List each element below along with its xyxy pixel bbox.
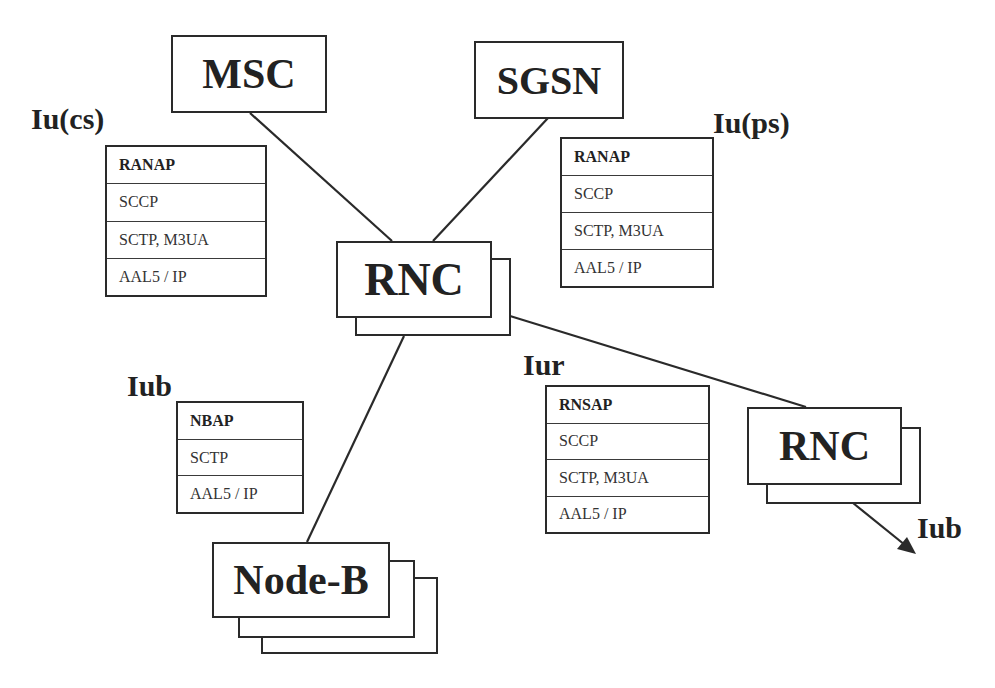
iub-remote-label: Iub — [917, 513, 962, 543]
sgsn-node[interactable]: SGSN — [474, 41, 624, 119]
rnc-remote-node[interactable]: RNC — [747, 407, 902, 485]
rnc-remote-label: RNC — [779, 422, 870, 470]
protocol-layer: SCCP — [562, 175, 712, 212]
rnc-main-label: RNC — [364, 253, 464, 306]
rnc-main-node[interactable]: RNC — [336, 241, 492, 318]
protocol-layer: AAL5 / IP — [562, 249, 712, 286]
protocol-layer: NBAP — [178, 403, 302, 439]
iu-ps-label: Iu(ps) — [713, 108, 790, 138]
iub-protocol-stack: NBAP SCTP AAL5 / IP — [176, 401, 304, 514]
protocol-layer: SCCP — [547, 423, 708, 460]
protocol-layer: SCTP, M3UA — [562, 212, 712, 249]
protocol-layer: RANAP — [562, 139, 712, 175]
msc-node[interactable]: MSC — [171, 35, 327, 113]
node-b-node[interactable]: Node-B — [212, 542, 390, 618]
iu-cs-label: Iu(cs) — [31, 104, 104, 134]
iur-label: Iur — [523, 350, 565, 380]
msc-label: MSC — [202, 50, 295, 98]
sgsn-label: SGSN — [497, 57, 602, 104]
protocol-layer: AAL5 / IP — [107, 258, 265, 295]
protocol-layer: SCTP, M3UA — [107, 221, 265, 258]
protocol-layer: RNSAP — [547, 387, 708, 423]
protocol-layer: RANAP — [107, 147, 265, 183]
iu-cs-protocol-stack: RANAP SCCP SCTP, M3UA AAL5 / IP — [105, 145, 267, 297]
iub-label: Iub — [127, 371, 172, 401]
node-b-label: Node-B — [233, 556, 368, 604]
link-msc-rnc — [250, 113, 392, 241]
protocol-layer: SCTP, M3UA — [547, 459, 708, 496]
protocol-layer: AAL5 / IP — [547, 496, 708, 533]
iu-ps-protocol-stack: RANAP SCCP SCTP, M3UA AAL5 / IP — [560, 137, 714, 288]
link-rnc-nodeb — [307, 336, 404, 542]
protocol-layer: AAL5 / IP — [178, 475, 302, 512]
protocol-layer: SCCP — [107, 183, 265, 220]
link-sgsn-rnc — [433, 118, 548, 241]
link-rnc-iub-arrow — [853, 503, 905, 545]
iur-protocol-stack: RNSAP SCCP SCTP, M3UA AAL5 / IP — [545, 385, 710, 534]
protocol-layer: SCTP — [178, 439, 302, 476]
